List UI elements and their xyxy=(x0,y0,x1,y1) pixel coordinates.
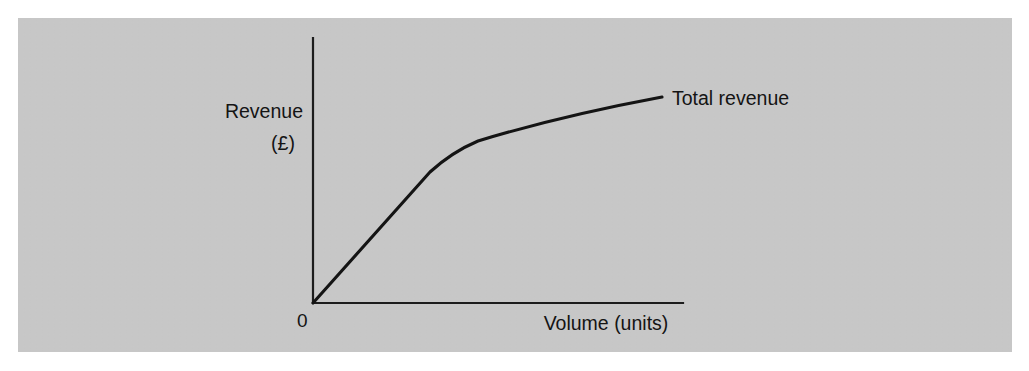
origin-label: 0 xyxy=(297,310,308,331)
x-axis-label: Volume (units) xyxy=(544,312,669,334)
revenue-chart: Revenue (£) Volume (units) 0 Total reven… xyxy=(0,0,1029,371)
total-revenue-curve xyxy=(313,97,662,303)
series-label-total-revenue: Total revenue xyxy=(672,87,789,109)
y-axis-label-line1: Revenue xyxy=(225,100,303,122)
figure-container: Revenue (£) Volume (units) 0 Total reven… xyxy=(0,0,1029,371)
y-axis-label-line2: (£) xyxy=(271,132,295,154)
